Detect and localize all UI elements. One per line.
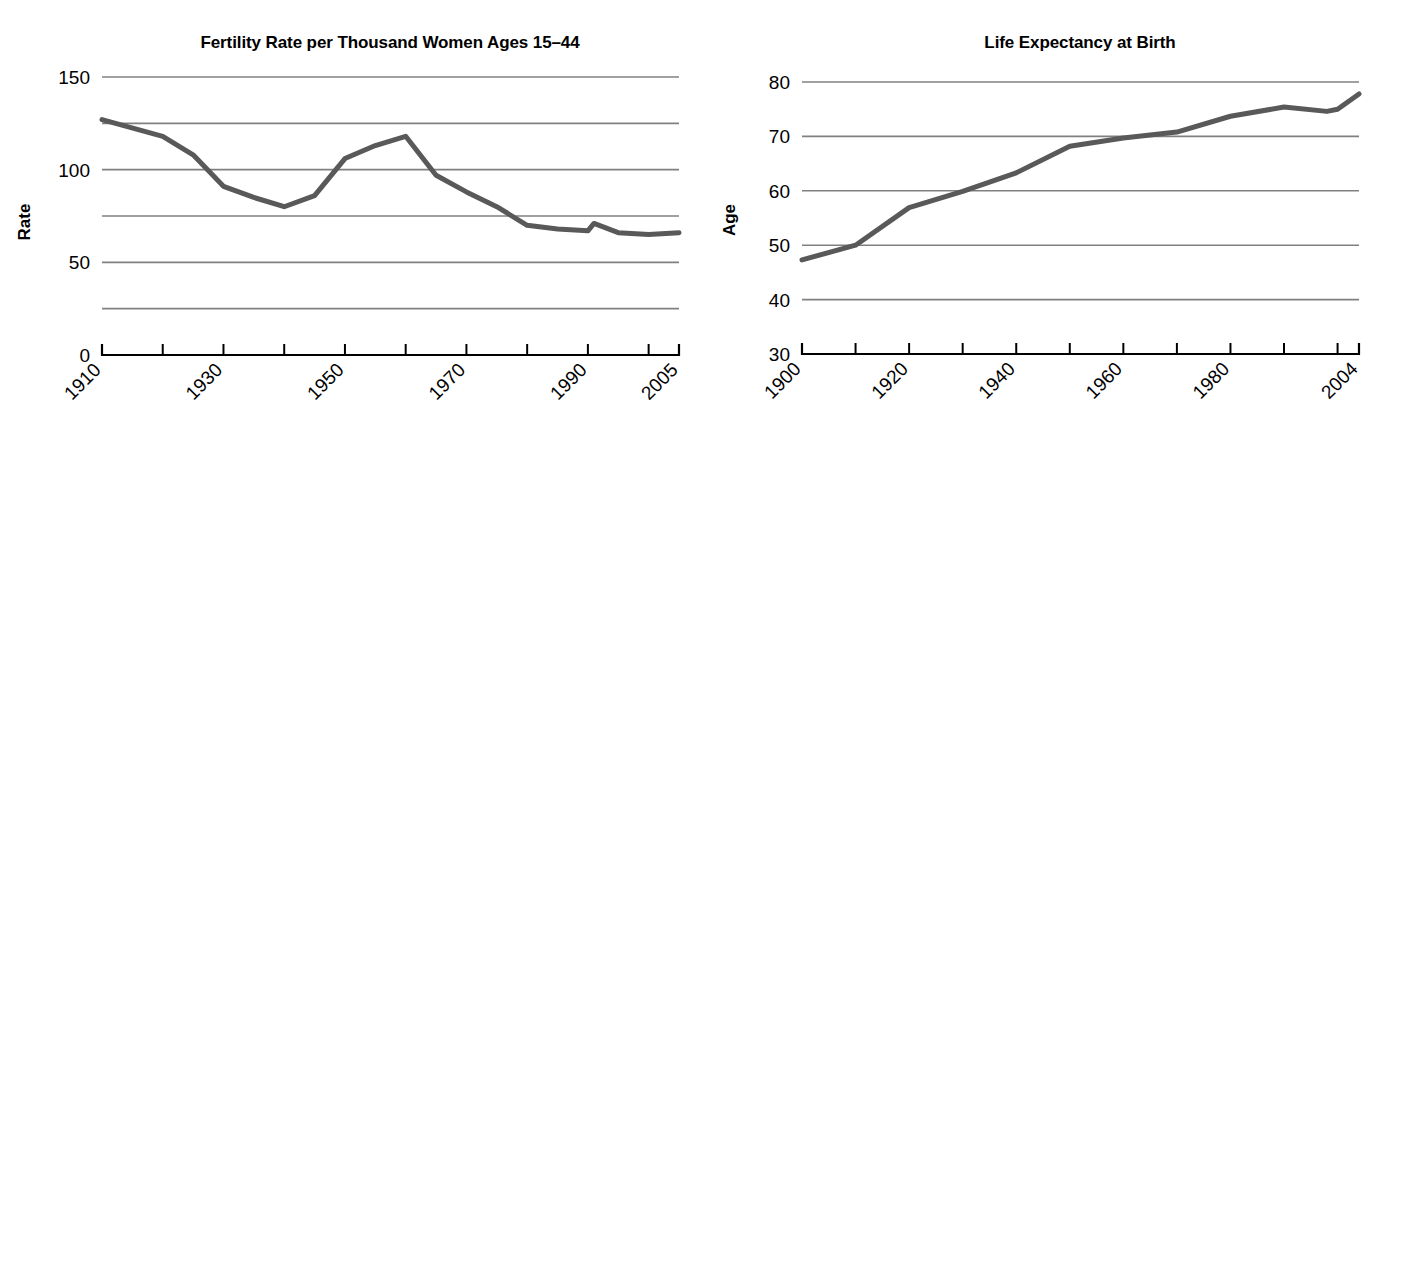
panel-life-expectancy: Life Expectancy at Birth304050607080Age1…	[700, 0, 1401, 420]
y-tick-label: 50	[769, 235, 790, 256]
x-tick-label: 1980	[1189, 358, 1234, 403]
chart-median-age-first-marriage: Median Age at First Marriage202224262830…	[700, 830, 1401, 1272]
chart-infant-mortality: Infant Mortality0306090120150Per 1,000 l…	[700, 420, 1401, 830]
y-axis-label: Age	[720, 204, 739, 236]
y-tick-label: 60	[769, 181, 790, 202]
chart-fertility-rate: Fertility Rate per Thousand Women Ages 1…	[0, 0, 700, 420]
chart-life-expectancy: Life Expectancy at Birth304050607080Age1…	[700, 0, 1401, 420]
series-line-fertility-rate	[102, 120, 679, 235]
x-tick-label: 1900	[760, 358, 805, 403]
x-tick-label: 1950	[303, 359, 348, 404]
x-axis	[102, 344, 679, 355]
chart-household-size: Household Size0123456Average number of h…	[0, 830, 700, 1272]
x-tick-label: 1960	[1081, 358, 1126, 403]
x-axis	[802, 343, 1359, 354]
panel-infant-mortality: Infant Mortality0306090120150Per 1,000 l…	[700, 420, 1401, 830]
panel-median-age-population: Median Age of Population (years)10203040…	[0, 420, 700, 830]
x-tick-label: 1940	[974, 358, 1019, 403]
y-tick-label: 50	[69, 252, 90, 273]
y-tick-label: 70	[769, 126, 790, 147]
x-tick-label: 1930	[182, 359, 227, 404]
y-tick-label: 80	[769, 72, 790, 93]
y-axis-label: Rate	[15, 204, 34, 241]
x-tick-label: 1920	[867, 358, 912, 403]
chart-title: Fertility Rate per Thousand Women Ages 1…	[200, 33, 580, 52]
y-tick-label: 40	[769, 290, 790, 311]
panel-fertility-rate: Fertility Rate per Thousand Women Ages 1…	[0, 0, 700, 420]
chart-title: Life Expectancy at Birth	[984, 33, 1175, 52]
series-line-life-expectancy	[802, 94, 1359, 260]
x-tick-label: 1990	[546, 359, 591, 404]
x-tick-label: 2004	[1317, 358, 1362, 403]
panel-household-size: Household Size0123456Average number of h…	[0, 830, 700, 1272]
panel-median-age-first-marriage: Median Age at First Marriage202224262830…	[700, 830, 1401, 1272]
y-tick-label: 100	[58, 160, 90, 181]
chart-grid: Fertility Rate per Thousand Women Ages 1…	[0, 0, 1401, 1272]
y-tick-label: 150	[58, 67, 90, 88]
x-tick-label: 1910	[60, 359, 105, 404]
x-tick-label: 2005	[637, 359, 682, 404]
x-tick-label: 1970	[425, 359, 470, 404]
chart-median-age-population: Median Age of Population (years)10203040…	[0, 420, 700, 830]
